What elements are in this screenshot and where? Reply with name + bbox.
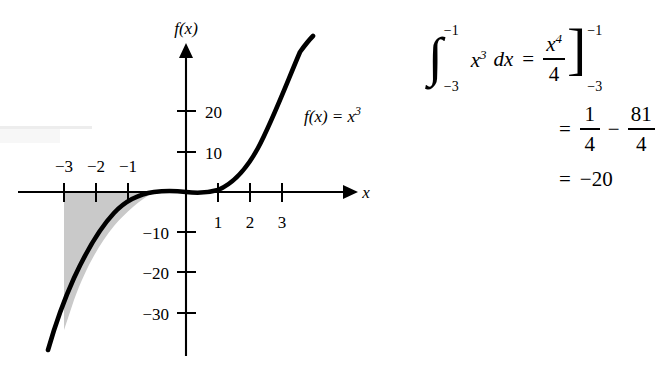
y-tick-label--30: −30	[142, 305, 169, 324]
integral-upper-limit: −1	[444, 24, 459, 38]
y-tick-label--20: −20	[142, 264, 169, 283]
curve-label: f(x) = x3	[304, 104, 361, 126]
equation-line-2: = 1 4 − 81 4	[550, 96, 664, 162]
bracket-lower-limit: −3	[587, 80, 602, 94]
graph-figure: −3 −2 −1 1 2 3 20 10 −10 −20 −30 f(x) x …	[0, 0, 400, 390]
y-axis-arrowhead	[179, 43, 193, 58]
second-fraction-denominator: 4	[633, 132, 650, 156]
y-tick-label-10: 10	[205, 144, 222, 163]
second-fraction-numerator: 81	[628, 102, 655, 126]
antiderivative-denominator: 4	[546, 62, 563, 86]
fraction-bar	[543, 58, 565, 60]
integral-result: −20	[580, 169, 613, 190]
y-tick-label--10: −10	[142, 224, 169, 243]
minus-operator: −	[608, 119, 620, 140]
equation-line-3: = −20	[550, 162, 664, 196]
integrand-base: x	[471, 48, 480, 72]
integral-limits: −1 −3	[444, 28, 459, 90]
equation-line-1: ∫ −1 −3 x3 dx = x4 4 ] −1 −3	[428, 22, 664, 96]
x-tick-label--2: −2	[87, 157, 105, 176]
antiderivative-fraction: x4 4	[543, 32, 565, 86]
y-tick-label-20: 20	[205, 103, 222, 122]
first-fraction-numerator: 1	[582, 102, 599, 126]
x-tick-label-3: 3	[278, 213, 287, 232]
bracket-limits: −1 −3	[587, 30, 602, 88]
x-axis-arrowhead	[343, 185, 358, 199]
bracket-glyph: ]	[567, 26, 586, 84]
antiderivative-numerator-exponent: 4	[556, 31, 563, 46]
integrand: x3	[471, 48, 487, 71]
x-tick-label-2: 2	[246, 213, 255, 232]
x-tick-label--1: −1	[119, 157, 137, 176]
cubic-function-graph: −3 −2 −1 1 2 3 20 10 −10 −20 −30 f(x) x …	[0, 0, 400, 390]
equation-block: ∫ −1 −3 x3 dx = x4 4 ] −1 −3 =	[428, 22, 664, 196]
integrand-exponent: 3	[480, 47, 487, 62]
figure-page: −3 −2 −1 1 2 3 20 10 −10 −20 −30 f(x) x …	[0, 0, 670, 390]
first-fraction-bar	[580, 128, 600, 130]
x-tick-label--3: −3	[55, 157, 73, 176]
differential-dx: dx	[494, 49, 514, 70]
equals-sign-3: =	[559, 169, 571, 190]
second-fraction: 81 4	[628, 102, 655, 156]
curve-label-exponent: 3	[354, 104, 361, 118]
equals-sign-1: =	[522, 49, 534, 70]
antiderivative-numerator-base: x	[546, 32, 555, 56]
first-fraction: 1 4	[580, 102, 600, 156]
bracket-upper-limit: −1	[587, 24, 602, 38]
shaded-area-region	[64, 192, 154, 330]
second-fraction-bar	[628, 128, 655, 130]
x-tick-label-1: 1	[214, 213, 223, 232]
equals-sign-2: =	[559, 119, 571, 140]
first-fraction-denominator: 4	[582, 132, 599, 156]
y-axis-label: f(x)	[174, 19, 198, 38]
evaluation-bracket: ] −1 −3	[567, 30, 602, 88]
integral-lower-limit: −3	[444, 80, 459, 94]
curve-label-text: f(x) = x	[304, 107, 356, 126]
x-axis-label: x	[361, 183, 370, 202]
antiderivative-numerator: x4	[543, 32, 565, 56]
integral-sign: ∫	[428, 36, 443, 79]
